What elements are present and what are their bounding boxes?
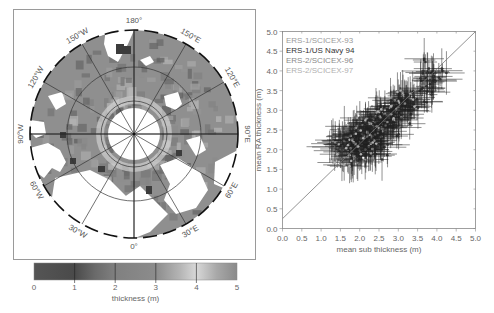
- colorbar-gradient: [34, 263, 237, 280]
- legend-item-1: ERS-1/US Navy 94: [286, 46, 355, 55]
- legend-item-2: ERS-2/SCICEX-96: [286, 56, 354, 65]
- svg-text:3.5: 3.5: [412, 234, 424, 243]
- svg-text:5.0: 5.0: [470, 234, 482, 243]
- svg-text:3.5: 3.5: [266, 87, 278, 96]
- svg-text:2.0: 2.0: [266, 146, 278, 155]
- svg-text:0.5: 0.5: [266, 205, 278, 214]
- svg-text:2.5: 2.5: [266, 126, 278, 135]
- svg-text:1.5: 1.5: [335, 234, 347, 243]
- svg-text:0.0: 0.0: [277, 234, 289, 243]
- svg-text:3.0: 3.0: [266, 106, 278, 115]
- svg-text:4.5: 4.5: [451, 234, 463, 243]
- svg-text:180°: 180°: [126, 16, 143, 25]
- svg-text:4.5: 4.5: [266, 47, 278, 56]
- colorbar-label: thickness (m): [112, 294, 160, 303]
- svg-text:90°W: 90°W: [16, 124, 25, 144]
- svg-text:2: 2: [113, 283, 118, 292]
- svg-text:1: 1: [72, 283, 77, 292]
- scatter-panel: 0.00.51.01.52.02.53.03.54.04.55.0 0.00.5…: [254, 28, 482, 255]
- svg-text:2.5: 2.5: [373, 234, 385, 243]
- polar-map-panel: 180°150°E120°E90°E60°E30°E0°30°W60°W90°W…: [14, 10, 256, 260]
- svg-text:0°: 0°: [130, 242, 138, 251]
- svg-text:3: 3: [154, 283, 159, 292]
- svg-text:1.0: 1.0: [316, 234, 328, 243]
- svg-text:1.0: 1.0: [266, 185, 278, 194]
- legend-item-3: ERS-2/SCICEX-97: [286, 66, 354, 75]
- svg-text:4: 4: [194, 283, 199, 292]
- svg-text:2.0: 2.0: [354, 234, 366, 243]
- legend: ERS-1/SCICEX-93 ERS-1/US Navy 94 ERS-2/S…: [286, 36, 355, 75]
- svg-text:4.0: 4.0: [266, 67, 278, 76]
- svg-text:1.5: 1.5: [266, 165, 278, 174]
- north-pole-dot: [133, 133, 136, 136]
- legend-item-0: ERS-1/SCICEX-93: [286, 36, 354, 45]
- svg-text:3.0: 3.0: [393, 234, 405, 243]
- x-axis-label: mean sub thickness (m): [337, 245, 422, 254]
- svg-text:90°E: 90°E: [243, 125, 252, 142]
- y-axis-label: mean RA thickness (m): [254, 88, 263, 171]
- svg-text:0.5: 0.5: [296, 234, 308, 243]
- figure: 180°150°E120°E90°E60°E30°E0°30°W60°W90°W…: [0, 0, 494, 313]
- svg-text:5.0: 5.0: [266, 28, 278, 37]
- colorbar: 012345 thickness (m): [32, 263, 240, 303]
- svg-text:0.0: 0.0: [266, 225, 278, 234]
- svg-text:5: 5: [235, 283, 240, 292]
- svg-text:0: 0: [32, 283, 37, 292]
- svg-text:4.0: 4.0: [431, 234, 443, 243]
